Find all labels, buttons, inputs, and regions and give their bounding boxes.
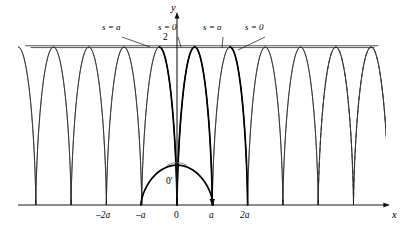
cycloid-arc-left-9 (283, 47, 318, 205)
cycloid-arc-left-1 (1, 47, 36, 205)
figure-container: y x 2 0' –2a –a 0 a 2a s = a s = 0 s = a… (0, 0, 405, 235)
leader-line-3 (238, 37, 265, 50)
cycloid-arc-dashed-1 (354, 47, 389, 205)
annotation-s-equals-0-right: s = 0 (245, 23, 264, 32)
cycloid-family-left (0, 47, 389, 205)
cycloid-arc-right-3 (106, 47, 141, 205)
cycloid-arc-right-7 (248, 47, 283, 205)
bold-cycloid-curves (141, 47, 248, 205)
cycloid-arc-left-2 (36, 47, 71, 205)
cycloid-arc-left-4 (106, 47, 141, 205)
x-tick-label-minus-2a: –2a (96, 211, 110, 221)
cycloid-arc-dashed-0 (318, 47, 353, 205)
cycloid-arc-left-10 (318, 47, 353, 205)
x-tick-label-minus-a: –a (136, 211, 146, 221)
cycloid-arc-right-8 (283, 47, 318, 205)
cycloid-arc-left-7 (212, 47, 247, 205)
cycloid-arc-right-9 (318, 47, 353, 205)
y-value-2-label: 2 (163, 33, 168, 43)
cycloid-arc-right-2 (71, 47, 106, 205)
x-axis-label: x (392, 209, 397, 220)
cycloid-family-right (1, 47, 389, 205)
annotation-s-equals-0-left: s = 0 (158, 23, 177, 32)
cycloid-arc-right-10 (354, 47, 389, 205)
bold-cycloid-loop-right-half (177, 47, 195, 205)
axes-group (18, 13, 389, 205)
annotation-s-equals-a-right: s = a (203, 23, 222, 32)
bold-cycloid-s-equals-a (230, 47, 248, 205)
y-axis-label: y (171, 2, 176, 13)
cycloid-arc-right-6 (212, 47, 247, 205)
cycloid-net-plot (0, 0, 405, 235)
cycloid-arc-left-3 (71, 47, 106, 205)
annotation-s-equals-a-left: s = a (102, 23, 121, 32)
envelope-line-y2 (25, 46, 378, 48)
x-tick-label-2a: 2a (240, 211, 250, 221)
cycloid-arc-right-1 (36, 47, 71, 205)
x-tick-label-zero: 0 (174, 211, 179, 221)
x-tick-label-a: a (209, 211, 214, 221)
cycloid-arc-left-8 (248, 47, 283, 205)
cycloid-arc-right-5 (177, 47, 212, 205)
cycloid-arc-left-6 (177, 47, 212, 205)
cycloid-arc-right-0 (1, 47, 36, 205)
cycloid-family-dashed (318, 47, 389, 205)
cycloid-arc-left-11 (354, 47, 389, 205)
second-origin-label: 0' (166, 177, 172, 187)
cycloid-arc-left-0 (0, 47, 1, 205)
